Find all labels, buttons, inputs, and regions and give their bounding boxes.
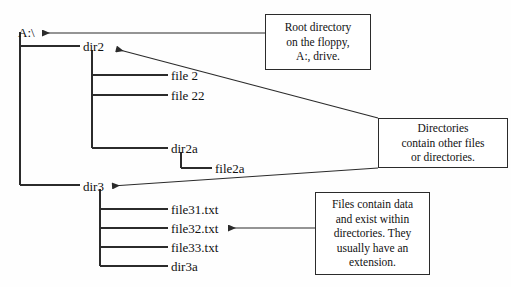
callout-files: Files contain data and exist within dire… (315, 192, 430, 275)
callout-directories-line-3: or directories. (401, 150, 484, 165)
tree-node-dir2a[interactable]: dir2a (171, 142, 198, 156)
tree-node-file2[interactable]: file 2 (171, 69, 198, 83)
callout-root-directory: Root directory on the floppy, A:, drive. (265, 14, 371, 70)
directory-tree-diagram: A:\ dir2 file 2 file 22 dir2a file2a dir… (0, 0, 511, 287)
tree-node-file33[interactable]: file33.txt (171, 241, 218, 255)
callout-files-line-3: directories. They (332, 226, 413, 241)
callout-files-line-1: Files contain data (332, 197, 413, 212)
callout-root-line-2: on the floppy, (285, 35, 352, 50)
callout-directories-line-2: contain other files (401, 136, 484, 151)
callout-root-line-3: A:, drive. (285, 49, 352, 64)
tree-node-root[interactable]: A:\ (18, 26, 35, 40)
callout-files-line-4: usually have an (332, 241, 413, 256)
tree-node-file31[interactable]: file31.txt (171, 203, 218, 217)
tree-node-dir2[interactable]: dir2 (83, 40, 104, 54)
callout-directories: Directories contain other files or direc… (378, 118, 508, 168)
pointer-directories-dir3 (112, 168, 378, 186)
tree-node-dir3[interactable]: dir3 (83, 180, 104, 194)
tree-node-dir3a[interactable]: dir3a (171, 260, 198, 274)
tree-node-file2a[interactable]: file2a (215, 162, 245, 176)
callout-files-line-2: and exist within (332, 212, 413, 227)
callout-directories-line-1: Directories (401, 121, 484, 136)
callout-files-line-5: extension. (332, 255, 413, 270)
tree-node-file22[interactable]: file 22 (171, 89, 205, 103)
tree-node-file32[interactable]: file32.txt (171, 222, 218, 236)
callout-root-line-1: Root directory (285, 20, 352, 35)
